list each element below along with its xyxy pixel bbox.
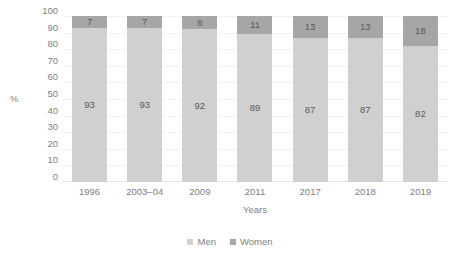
legend-label: Women [240,236,273,247]
bar-value-label: 92 [182,101,217,111]
bar-value-label: 93 [72,100,107,110]
bar-value-label: 13 [305,22,316,32]
y-axis: 100 90 80 70 60 50 40 30 20 10 0 [14,11,58,183]
y-axis-tick: 20 [14,139,58,149]
legend-swatch-icon [187,239,193,245]
bar-value-label: 18 [415,26,426,36]
y-axis-tick: 60 [14,72,58,82]
bar-value-label: 7 [87,17,92,27]
chart-legend: Men Women [0,236,460,247]
x-axis-tick: 2017 [283,186,338,202]
y-axis-tick: 70 [14,56,58,66]
bar-series-container: 7 93 7 93 8 92 [62,16,448,182]
bar-group[interactable]: 18 82 [403,16,438,182]
legend-item-men[interactable]: Men [187,236,215,247]
bar-value-label: 7 [142,17,147,27]
bar-group[interactable]: 13 87 [348,16,383,182]
y-axis-tick: 80 [14,39,58,49]
bar-segment-women[interactable]: 13 [293,16,328,38]
plot-area: 7 93 7 93 8 92 [62,16,448,182]
bar-segment-men[interactable]: 87 [348,38,383,182]
bar-segment-women[interactable]: 13 [348,16,383,38]
bar-group[interactable]: 13 87 [293,16,328,182]
y-axis-tick: 90 [14,23,58,33]
bar-segment-women[interactable]: 7 [72,16,107,28]
stacked-bar-chart: 100 90 80 70 60 50 40 30 20 10 0 % 7 [0,0,460,254]
bar-segment-men[interactable]: 82 [403,46,438,182]
bar-group[interactable]: 11 89 [237,16,272,182]
x-axis-title: Years [62,204,448,216]
x-axis-tick: 1996 [62,186,117,202]
x-axis: 1996 2003–04 2009 2011 2017 2018 2019 [62,186,448,202]
bar-group[interactable]: 7 93 [72,16,107,182]
bar-segment-men[interactable]: 92 [182,29,217,182]
bar-segment-women[interactable]: 8 [182,16,217,29]
x-axis-tick: 2019 [393,186,448,202]
bar-value-label: 87 [293,105,328,115]
x-axis-tick: 2018 [338,186,393,202]
x-axis-tick: 2009 [172,186,227,202]
y-axis-tick: 100 [14,6,58,16]
y-axis-tick: 0 [14,172,58,182]
bar-segment-men[interactable]: 93 [72,28,107,182]
bar-value-label: 93 [127,100,162,110]
bar-segment-women[interactable]: 7 [127,16,162,28]
bar-value-label: 87 [348,105,383,115]
bar-value-label: 82 [403,109,438,119]
bar-value-label: 8 [197,18,202,28]
y-axis-tick: 40 [14,106,58,116]
bar-segment-men[interactable]: 93 [127,28,162,182]
legend-item-women[interactable]: Women [230,236,273,247]
bar-group[interactable]: 7 93 [127,16,162,182]
bar-value-label: 13 [360,22,371,32]
y-axis-tick: 10 [14,155,58,165]
bar-segment-women[interactable]: 11 [237,16,272,34]
y-axis-tick: 50 [14,89,58,99]
bar-segment-men[interactable]: 89 [237,34,272,182]
x-axis-tick: 2011 [227,186,282,202]
legend-swatch-icon [230,239,236,245]
x-axis-tick: 2003–04 [117,186,172,202]
y-axis-tick: 30 [14,122,58,132]
bar-segment-women[interactable]: 18 [403,16,438,46]
legend-label: Men [197,236,215,247]
bar-value-label: 11 [250,20,260,30]
y-axis-title: % [10,94,18,104]
bar-value-label: 89 [237,103,272,113]
bar-segment-men[interactable]: 87 [293,38,328,182]
bar-group[interactable]: 8 92 [182,16,217,182]
